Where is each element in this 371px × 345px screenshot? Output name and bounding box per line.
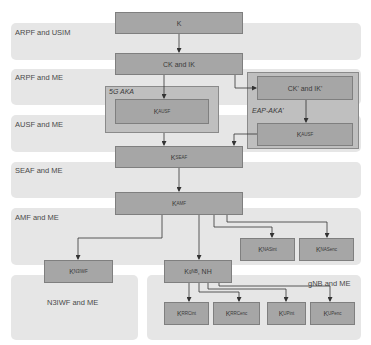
band-label-arpf-usim: ARPF and USIM [15,28,70,37]
key-k-upint: KUPint [267,302,306,325]
key-base: CK' and IK' [288,85,323,92]
key-k-nasint: KNASint [240,238,295,261]
key-sub: gNB [189,269,198,274]
key-sub: N3IWF [74,269,88,274]
key-sub: UPint [283,311,294,316]
key-k-upenc: KUPenc [310,302,355,325]
key-sub: UPenc [328,311,342,316]
key-sub: AMF [177,201,187,206]
key-k-amf: KAMF [115,192,243,215]
key-k-n3iwf: KN3IWF [44,260,113,283]
key-k-ausf-5g-aka: KAUSF [115,99,209,124]
key-k-rrcint: KRRCint [164,302,209,325]
key-sub: RRCenc [230,311,247,316]
container-label-5g-aka: 5G AKA [109,88,134,95]
key-k-seaf: KSEAF [115,146,243,168]
key-k-nasenc: KNASenc [299,238,354,261]
key-sub: NASint [263,247,277,252]
key-k: K [115,12,243,34]
band-label-seaf-me: SEAF and ME [15,166,63,175]
container-label-eap-aka-prime: EAP-AKA' [252,107,284,114]
key-ck-ik: CK and IK [115,53,243,75]
key-ck-ik-prime: CK' and IK' [257,76,353,100]
band-label-amf-me: AMF and ME [15,213,59,222]
key-suffix: , NH [198,268,212,275]
band-label-n3iwf-me: N3IWF and ME [47,298,98,307]
key-k-gnb-nh: KgNB, NH [164,260,232,283]
key-sub: AUSF [301,132,313,137]
key-sub: SEAF [175,155,187,160]
key-sub: AUSF [158,109,170,114]
key-ck-ik-base: CK and IK [163,61,195,68]
key-k-ausf-eap-aka: KAUSF [257,123,353,146]
key-sub: NASenc [321,247,338,252]
band-n3iwf-me [11,275,138,340]
key-k-base: K [177,20,182,27]
key-k-rrcenc: KRRCenc [213,302,260,325]
band-label-gnb-me: gNB and ME [308,279,351,288]
band-label-arpf-me: ARPF and ME [15,73,63,82]
key-sub: RRCint [182,311,197,316]
band-label-ausf-me: AUSF and ME [15,120,63,129]
